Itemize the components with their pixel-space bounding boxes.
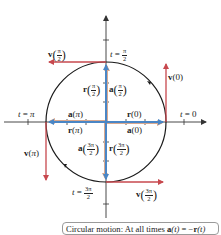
- label-a-3pi-over-2: a(3π2): [78, 142, 99, 156]
- label-t-0: t = 0: [180, 110, 197, 119]
- label-a-pi-over-2: a(π2): [109, 83, 127, 97]
- label-v-pi: v(π): [24, 149, 39, 158]
- label-r-pi-over-2: r(π2): [83, 83, 100, 97]
- label-t-pi: t = π: [18, 110, 35, 119]
- label-v-3pi-over-2: v(3π2): [136, 188, 157, 202]
- label-a-pi: a(π): [68, 110, 83, 119]
- label-t-3pi-over-2: t = 3π2: [72, 186, 93, 200]
- label-t-pi-over-2: t = π2: [110, 48, 127, 62]
- label-v-pi-over-2: v(π2): [48, 48, 66, 62]
- label-v-0: v(0): [168, 73, 183, 82]
- label-r-pi: r(π): [68, 126, 83, 135]
- position-vectors: [49, 65, 163, 179]
- label-r-3pi-over-2: r(3π2): [109, 142, 130, 156]
- caption-t2: (t): [197, 224, 205, 234]
- caption-eq: = −: [179, 224, 193, 234]
- label-a-0: a(0): [127, 126, 142, 135]
- caption-box: Circular motion: At all times a(t) = −r(…: [62, 222, 219, 235]
- label-r-0: r(0): [127, 110, 142, 119]
- caption-prefix: Circular motion: At all times: [66, 224, 167, 234]
